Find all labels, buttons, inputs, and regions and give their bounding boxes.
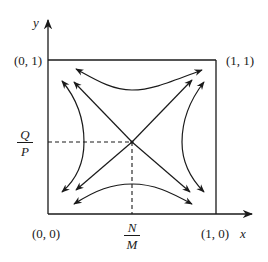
x-axis-label: x	[240, 227, 246, 240]
corner-label-top-right: (1, 1)	[226, 54, 254, 67]
unit-square-border	[48, 60, 216, 214]
y-label-denominator: P	[19, 143, 31, 158]
corner-label-bottom-left: (0, 0)	[32, 227, 60, 240]
separatrix-lines	[74, 80, 192, 192]
y-label-numerator: Q	[18, 128, 31, 142]
corner-label-top-left: (0, 1)	[14, 54, 42, 67]
equilibrium-y-label: Q P	[17, 128, 33, 158]
x-label-numerator: N	[126, 221, 139, 235]
equilibrium-point	[130, 140, 133, 143]
x-label-denominator: M	[125, 236, 140, 251]
equilibrium-x-label: N M	[124, 221, 140, 251]
corner-label-bottom-right: (1, 0)	[201, 227, 229, 240]
y-axis-label: y	[33, 16, 39, 29]
